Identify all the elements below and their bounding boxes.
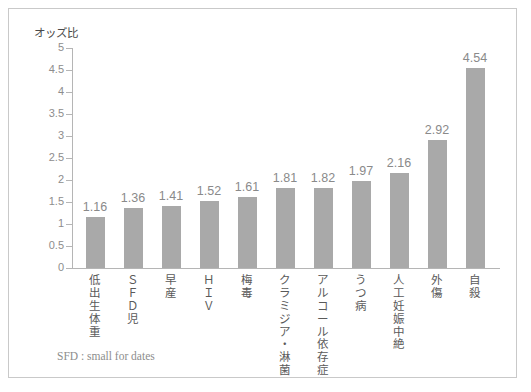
x-axis-category-label: アルコール依存症 (312, 274, 334, 377)
y-axis-tick-label: 1 (30, 218, 64, 229)
x-axis-category-label: 梅毒 (236, 274, 258, 300)
category-label-char: 傷 (426, 287, 448, 300)
category-label-char: 症 (312, 364, 334, 377)
category-label-char: ミ (274, 300, 296, 313)
y-axis-tick-label-wrap: 1.5 (26, 196, 64, 208)
category-label-char: つ (350, 287, 372, 300)
bar (124, 208, 143, 268)
y-axis-tick-mark (66, 136, 72, 137)
bar (200, 201, 219, 268)
category-label-char: 殺 (464, 287, 486, 300)
category-label-char: 重 (84, 326, 106, 339)
category-label-char: 淋 (274, 351, 296, 364)
category-label-char: Ｓ (122, 274, 144, 287)
y-axis-tick-label: 4.5 (30, 64, 64, 75)
category-label-char: 娠 (388, 313, 410, 326)
category-label-char: コ (312, 300, 334, 313)
footnote: SFD : small for dates (57, 350, 155, 362)
y-axis-tick-label-wrap: 2 (26, 174, 64, 186)
category-label-char: 体 (84, 313, 106, 326)
y-axis-title: オッズ比 (34, 27, 78, 40)
bar (428, 140, 447, 268)
y-axis-tick-label: 3 (30, 130, 64, 141)
y-axis-tick-mark (66, 246, 72, 247)
category-label-char: 存 (312, 351, 334, 364)
category-label-char: 早 (160, 274, 182, 287)
category-label-char: ル (312, 287, 334, 300)
category-label-char: Ｖ (198, 300, 220, 313)
category-label-char: Ｉ (198, 287, 220, 300)
bar (466, 68, 485, 268)
category-label-char: ジ (274, 313, 296, 326)
x-axis-category-label: 外傷 (426, 274, 448, 300)
bar-value-label: 2.16 (376, 157, 422, 170)
x-axis-category-label: 早産 (160, 274, 182, 300)
y-axis-tick-mark (66, 180, 72, 181)
y-axis-tick-mark (66, 70, 72, 71)
y-axis-tick-label: 2.5 (30, 152, 64, 163)
y-axis-tick-label-wrap: 4.5 (26, 64, 64, 76)
category-label-char: ク (274, 274, 296, 287)
category-label-char: 工 (388, 287, 410, 300)
x-axis-category-label: うつ病 (350, 274, 372, 313)
y-axis-tick-mark (66, 114, 72, 115)
bar (390, 173, 409, 268)
y-axis-tick-label-wrap: 1 (26, 218, 64, 230)
category-label-char: 産 (160, 287, 182, 300)
y-axis-tick-mark (66, 158, 72, 159)
category-label-char: Ｆ (122, 287, 144, 300)
y-axis-tick-label: 4 (30, 86, 64, 97)
category-label-char: う (350, 274, 372, 287)
y-axis-tick-label-wrap: 5 (26, 42, 64, 54)
category-label-char: ー (312, 313, 334, 326)
y-axis-tick-mark (66, 48, 72, 49)
category-label-char: ・ (274, 338, 296, 351)
y-axis-tick-label-wrap: 4 (26, 86, 64, 98)
y-axis-tick-label-wrap: 2.5 (26, 152, 64, 164)
y-axis-tick-label-wrap: 0 (26, 262, 64, 274)
y-axis-tick-label: 0 (30, 262, 64, 273)
bar-value-label: 2.92 (414, 124, 460, 137)
category-label-char: 外 (426, 274, 448, 287)
y-axis-tick-label: 1.5 (30, 196, 64, 207)
x-axis-category-label: 人工妊娠中絶 (388, 274, 410, 351)
bar (162, 206, 181, 268)
bar (86, 217, 105, 268)
bar (238, 197, 257, 268)
category-label-char: ア (274, 326, 296, 339)
category-label-char: 児 (122, 313, 144, 326)
y-axis-tick-label: 2 (30, 174, 64, 185)
category-label-char: 低 (84, 274, 106, 287)
y-axis-tick-label-wrap: 0.5 (26, 240, 64, 252)
category-label-char: 菌 (274, 364, 296, 377)
y-axis-tick-mark (66, 92, 72, 93)
x-axis-category-label: 自殺 (464, 274, 486, 300)
category-label-char: 自 (464, 274, 486, 287)
category-label-char: ル (312, 326, 334, 339)
bar (314, 188, 333, 268)
category-label-char: 中 (388, 326, 410, 339)
y-axis-tick-label: 5 (30, 42, 64, 53)
y-axis-tick-label: 3.5 (30, 108, 64, 119)
category-label-char: Ｄ (122, 300, 144, 313)
category-label-char: 出 (84, 287, 106, 300)
y-axis-tick-label-wrap: 3.5 (26, 108, 64, 120)
bar (352, 181, 371, 268)
category-label-char: 毒 (236, 287, 258, 300)
category-label-char: Ｈ (198, 274, 220, 287)
bar-value-label: 4.54 (452, 52, 498, 65)
category-label-char: ア (312, 274, 334, 287)
x-axis-line (72, 268, 500, 269)
category-label-char: 人 (388, 274, 410, 287)
category-label-char: ラ (274, 287, 296, 300)
plot-area: オッズ比 00.511.522.533.544.55 1.161.361.411… (0, 0, 531, 392)
category-label-char: 病 (350, 300, 372, 313)
y-axis-tick-label-wrap: 3 (26, 130, 64, 142)
y-axis-tick-mark (66, 268, 72, 269)
y-axis-line (72, 48, 73, 269)
x-axis-category-label: ＨＩＶ (198, 274, 220, 313)
x-axis-category-label: ＳＦＤ児 (122, 274, 144, 326)
y-axis-tick-mark (66, 224, 72, 225)
category-label-char: 梅 (236, 274, 258, 287)
y-axis-tick-label: 0.5 (30, 240, 64, 251)
